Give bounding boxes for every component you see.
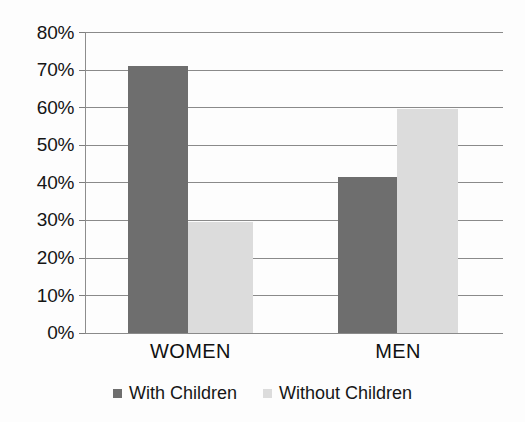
bar-women-with-children [128, 66, 188, 333]
y-tick-label: 10% [4, 286, 74, 305]
bar-men-with-children [338, 177, 397, 333]
y-tick-label: 70% [4, 60, 74, 79]
gridline-0-baseline [85, 333, 503, 334]
y-tick-label: 50% [4, 135, 74, 154]
legend-item-without-children[interactable]: Without Children [263, 383, 412, 403]
y-axis-labels: 80% 70% 60% 50% 40% 30% 20% 10% 0% [0, 0, 74, 422]
category-label-women: WOMEN [128, 340, 253, 362]
y-tick-label: 80% [4, 23, 74, 42]
bar-women-without-children [188, 222, 253, 333]
legend-label: Without Children [279, 383, 412, 403]
legend-swatch-icon [113, 389, 122, 398]
bar-chart: 80% 70% 60% 50% 40% 30% 20% 10% 0% [0, 0, 525, 422]
plot-area [85, 32, 503, 333]
chart-legend: With Children Without Children [0, 383, 525, 403]
y-tick-label: 30% [4, 210, 74, 229]
legend-item-with-children[interactable]: With Children [113, 383, 237, 403]
gridline-80 [85, 32, 503, 33]
legend-label: With Children [129, 383, 237, 403]
category-label-men: MEN [338, 340, 458, 362]
bar-men-without-children [397, 109, 458, 333]
y-tick-label: 40% [4, 173, 74, 192]
legend-swatch-icon [263, 389, 272, 398]
y-tick-label: 20% [4, 248, 74, 267]
y-tick-label: 0% [4, 323, 74, 342]
y-tick-label: 60% [4, 98, 74, 117]
